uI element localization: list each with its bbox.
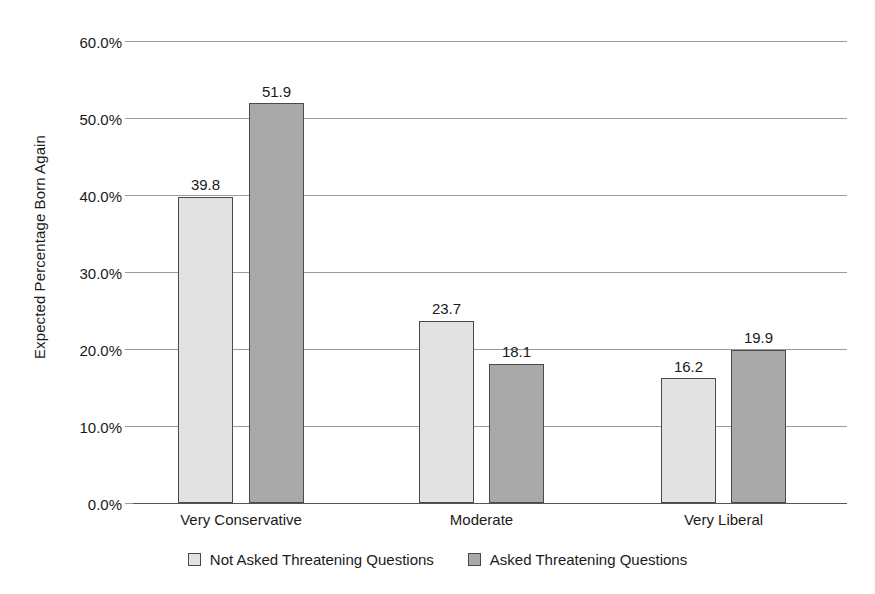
gridline-30 bbox=[133, 272, 847, 273]
legend-swatch-icon bbox=[188, 553, 201, 566]
legend-label: Asked Threatening Questions bbox=[490, 551, 687, 568]
x-category-very-liberal: Very Liberal bbox=[661, 512, 786, 527]
axis-baseline bbox=[133, 503, 847, 504]
bar-value-label: 51.9 bbox=[249, 84, 304, 99]
plot-area: 39.8 51.9 23.7 18.1 16.2 19.9 bbox=[133, 41, 847, 503]
bar-value-label: 19.9 bbox=[731, 330, 786, 345]
y-tick-label: 10.0% bbox=[38, 420, 122, 435]
gridline-40 bbox=[133, 195, 847, 196]
legend-item-asked[interactable]: Asked Threatening Questions bbox=[468, 551, 687, 568]
bar-value-label: 18.1 bbox=[489, 344, 544, 359]
gridline-60 bbox=[133, 41, 847, 42]
y-tick-label: 40.0% bbox=[38, 189, 122, 204]
legend-swatch-icon bbox=[468, 553, 481, 566]
bar-value-label: 39.8 bbox=[178, 177, 233, 192]
legend-item-not-asked[interactable]: Not Asked Threatening Questions bbox=[188, 551, 434, 568]
bar-chart: Expected Percentage Born Again 60.0% 50.… bbox=[0, 0, 875, 594]
legend-label: Not Asked Threatening Questions bbox=[210, 551, 434, 568]
bar-moderate-not-asked[interactable] bbox=[419, 321, 474, 504]
bar-very-conservative-asked[interactable] bbox=[249, 103, 304, 503]
y-axis-ticks: 60.0% 50.0% 40.0% 30.0% 20.0% 10.0% 0.0% bbox=[30, 41, 122, 503]
bar-moderate-asked[interactable] bbox=[489, 364, 544, 503]
y-tick-label: 30.0% bbox=[38, 266, 122, 281]
bar-value-label: 23.7 bbox=[419, 301, 474, 316]
y-tick-label: 20.0% bbox=[38, 343, 122, 358]
bar-value-label: 16.2 bbox=[661, 359, 716, 374]
bar-very-liberal-not-asked[interactable] bbox=[661, 378, 716, 503]
bar-very-conservative-not-asked[interactable] bbox=[178, 197, 233, 504]
x-category-moderate: Moderate bbox=[419, 512, 544, 527]
y-tick-label: 60.0% bbox=[38, 35, 122, 50]
x-category-very-conservative: Very Conservative bbox=[178, 512, 304, 527]
gridline-50 bbox=[133, 118, 847, 119]
bar-very-liberal-asked[interactable] bbox=[731, 350, 786, 503]
chart-legend: Not Asked Threatening Questions Asked Th… bbox=[0, 551, 875, 568]
y-tick-label: 0.0% bbox=[38, 497, 122, 512]
y-tick-label: 50.0% bbox=[38, 112, 122, 127]
